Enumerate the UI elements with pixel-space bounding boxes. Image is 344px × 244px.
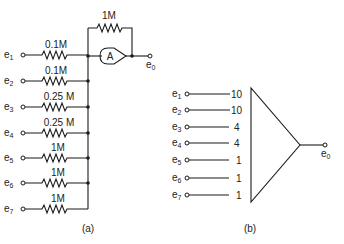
svg-text:0.25 M: 0.25 M [44, 117, 75, 128]
svg-text:e7: e7 [4, 203, 14, 215]
gain-row-7: e7 1 [172, 189, 242, 201]
output-label: e0 [146, 59, 156, 71]
gain-row-2: e2 10 [172, 104, 243, 116]
svg-text:e3: e3 [172, 121, 182, 133]
input-row-2: e2 0.1M [4, 65, 90, 87]
diagram-a: 1M A e0 e1 0.1M e2 0.1M e3 [4, 10, 156, 234]
gain-value: 10 [231, 89, 243, 100]
amplifier-a: A e0 [86, 48, 155, 71]
svg-text:0.1M: 0.1M [45, 65, 67, 76]
feedback-resistor-label: 1M [102, 10, 116, 21]
caption-a: (a) [82, 223, 94, 234]
input-row-5: e5 1M [4, 142, 90, 164]
gain-row-6: e6 1 [172, 172, 242, 184]
gain-row-4: e4 4 [172, 137, 240, 149]
svg-text:1M: 1M [51, 193, 65, 204]
gain-row-5: e5 1 [172, 154, 242, 166]
output-label-b: e0 [321, 148, 331, 160]
input-row-1: e1 0.1M [4, 39, 88, 61]
caption-b: (b) [244, 223, 256, 234]
resistor-label: 0.1M [45, 39, 67, 50]
output-node [130, 54, 134, 58]
svg-text:1M: 1M [51, 142, 65, 153]
gain-row-1: e1 10 [172, 88, 243, 100]
input-row-4: e4 0.25 M [4, 117, 90, 139]
input-row-6: e6 1M [4, 167, 90, 189]
svg-text:1: 1 [236, 155, 242, 166]
svg-text:4: 4 [234, 122, 240, 133]
svg-text:e2: e2 [4, 75, 14, 87]
svg-text:e4: e4 [172, 137, 182, 149]
feedback-resistor: 1M [88, 10, 132, 56]
svg-text:4: 4 [234, 138, 240, 149]
svg-text:e1: e1 [172, 88, 182, 100]
svg-text:e5: e5 [4, 152, 14, 164]
output-terminal [148, 54, 152, 58]
svg-text:e6: e6 [4, 177, 14, 189]
svg-text:e5: e5 [172, 154, 182, 166]
svg-text:1M: 1M [51, 167, 65, 178]
diagram-b: e0 e1 10 e2 10 e3 4 e4 4 e5 [172, 88, 331, 234]
svg-text:e7: e7 [172, 189, 182, 201]
svg-text:1: 1 [236, 173, 242, 184]
svg-text:e2: e2 [172, 104, 182, 116]
amplifier-label: A [107, 51, 114, 62]
svg-text:0.25 M: 0.25 M [44, 91, 75, 102]
svg-text:10: 10 [231, 105, 243, 116]
summer-triangle-icon [251, 88, 300, 202]
output-terminal-b [323, 143, 327, 147]
gain-row-3: e3 4 [172, 121, 240, 133]
input-row-7: e7 1M [4, 193, 88, 215]
svg-text:1: 1 [236, 190, 242, 201]
svg-text:e4: e4 [4, 127, 14, 139]
svg-text:e6: e6 [172, 172, 182, 184]
input-label: e1 [4, 49, 14, 61]
summing-amplifier-diagrams: 1M A e0 e1 0.1M e2 0.1M e3 [0, 0, 344, 244]
svg-text:e3: e3 [4, 101, 14, 113]
input-row-3: e3 0.25 M [4, 91, 90, 113]
